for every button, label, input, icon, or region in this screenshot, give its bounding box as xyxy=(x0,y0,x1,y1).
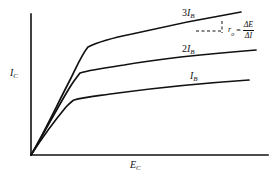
fraction-numerator: ΔE xyxy=(243,21,255,30)
chart-curves xyxy=(31,12,256,155)
y-axis-label: IC xyxy=(10,68,18,78)
equals-sign: = xyxy=(236,27,241,35)
slope-triangle-dashed xyxy=(196,21,222,33)
output-resistance-annotation: ro = ΔE ΔI xyxy=(228,21,254,40)
fraction-denominator: ΔI xyxy=(244,31,253,40)
x-axis-label: EC xyxy=(130,160,141,170)
curve-label-3ib: 3IB xyxy=(182,8,195,18)
ro-symbol: ro xyxy=(228,26,234,36)
curve-label-1ib: IB xyxy=(190,71,198,81)
curve-label-2ib: 2IB xyxy=(182,44,195,54)
delta-fraction: ΔE ΔI xyxy=(243,21,255,40)
transistor-collector-characteristics-figure: IC EC 3IB 2IB IB ro = ΔE ΔI xyxy=(0,0,275,180)
curve-2ib xyxy=(31,50,256,155)
